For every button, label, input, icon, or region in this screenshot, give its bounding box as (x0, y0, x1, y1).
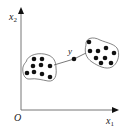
bridge-line-left (54, 59, 74, 65)
right-cluster-point (109, 61, 114, 66)
cluster-diagram: x2 x1 O y (0, 0, 128, 129)
bridge-point (72, 57, 77, 62)
left-cluster-point (32, 57, 37, 62)
x-axis-label: x1 (105, 115, 114, 128)
left-cluster-point (40, 57, 45, 62)
left-cluster-point (25, 71, 30, 76)
left-cluster-point (40, 72, 45, 77)
right-cluster-point (103, 56, 108, 61)
right-cluster-point (99, 61, 104, 66)
right-cluster-point (88, 49, 93, 54)
right-cluster-point (104, 46, 109, 51)
right-cluster-point (112, 51, 117, 56)
right-cluster-point (94, 56, 99, 61)
x-axis-arrow-icon (112, 107, 119, 113)
left-cluster-point (32, 70, 37, 75)
bridge-point-label: y (67, 46, 72, 56)
left-cluster-point (48, 64, 53, 69)
right-cluster-point (96, 49, 101, 54)
left-cluster-point (31, 64, 36, 69)
left-cluster-point (39, 63, 44, 68)
y-axis-arrow-icon (18, 7, 24, 14)
right-cluster-point (87, 40, 92, 45)
origin-label: O (14, 112, 21, 123)
left-cluster-point (48, 75, 53, 80)
y-axis-label: x2 (8, 11, 17, 24)
